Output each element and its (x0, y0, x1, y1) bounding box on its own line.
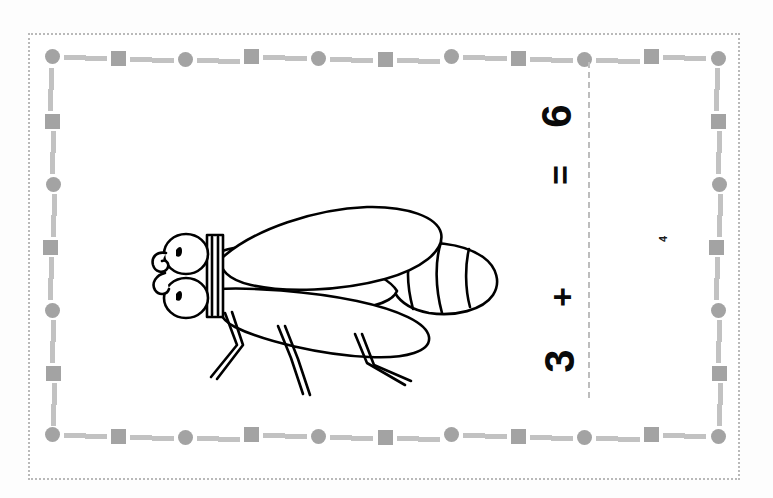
lower-wing (215, 289, 429, 358)
head (164, 234, 208, 318)
equation-addend: 3 (539, 349, 581, 372)
equation-answer: 6 (536, 104, 578, 127)
vertical-dashed-cut-line (588, 62, 590, 398)
fly-illustration (145, 195, 515, 405)
head-plate (207, 235, 223, 317)
equation-equals-sign: = (543, 165, 577, 185)
worksheet-page: 6 = + 3 4 (0, 0, 773, 498)
equation-plus-sign: + (545, 287, 579, 307)
missing-addend-mark: 4 (657, 236, 669, 242)
